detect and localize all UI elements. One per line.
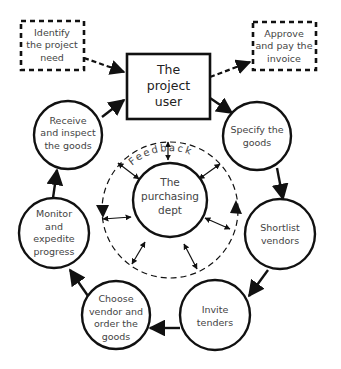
center-node-purchasing-dept: The purchasing dept	[133, 163, 207, 237]
monitor-line-3: expedite	[33, 233, 75, 244]
shortlist-line-1: Shortlist	[260, 222, 300, 233]
user-line-1: The	[156, 62, 181, 77]
step-choose-vendor: Choose vendor and order the goods	[82, 281, 150, 349]
identify-line-2: the project	[26, 39, 78, 50]
arrow-user-to-specify	[210, 98, 232, 113]
arrow-specify-to-shortlist	[277, 168, 283, 199]
choose-line-2: vendor and	[89, 306, 143, 317]
receive-line-2: and inspect	[40, 127, 96, 138]
choose-line-3: order the	[94, 318, 138, 329]
identify-line-3: need	[40, 52, 64, 63]
user-line-3: user	[155, 94, 183, 109]
identify-line-1: Identify	[34, 27, 70, 38]
feedback-arrowhead-left	[96, 205, 109, 218]
arrow-receive-to-user	[102, 100, 124, 117]
invite-line-2: tenders	[197, 317, 233, 328]
center-line-2: purchasing	[141, 190, 199, 202]
approve-line-3: invoice	[267, 53, 301, 64]
receive-line-3: the goods	[44, 140, 91, 151]
shortlist-line-2: vendors	[261, 235, 299, 246]
dashed-box-approve-invoice: Approve and pay the invoice	[253, 22, 316, 70]
dashed-box-identify-need: Identify the project need	[21, 21, 84, 70]
approve-line-2: and pay the	[256, 40, 313, 51]
arrow-shortlist-to-invite	[249, 270, 268, 296]
step-invite-tenders: Invite tenders	[180, 280, 250, 350]
monitor-line-1: Monitor	[36, 208, 72, 219]
specify-line-1: Specify the	[230, 124, 283, 135]
choose-line-4: goods	[102, 331, 131, 342]
monitor-line-2: and	[45, 221, 63, 232]
step-receive-goods: Receive and inspect the goods	[34, 101, 102, 169]
step-shortlist-vendors: Shortlist vendors	[245, 199, 315, 269]
receive-line-1: Receive	[49, 115, 86, 126]
arrow-choose-to-monitor	[70, 270, 88, 296]
monitor-line-4: progress	[33, 246, 74, 257]
center-line-3: dept	[158, 204, 182, 216]
top-node-project-user: The project user	[127, 54, 210, 119]
dashed-arrow-user-to-approve	[210, 62, 250, 77]
purchasing-cycle-diagram: Feedback The purchasing dept Identify th…	[0, 0, 341, 369]
feedback-arrowhead-right	[230, 200, 242, 214]
approve-line-1: Approve	[264, 28, 304, 39]
dashed-arrow-identify-to-user	[84, 58, 124, 72]
center-line-1: The	[159, 176, 180, 188]
user-line-2: project	[147, 78, 190, 93]
arrow-monitor-to-receive	[53, 170, 57, 198]
choose-line-1: Choose	[98, 293, 133, 304]
invite-line-1: Invite	[202, 304, 229, 315]
step-monitor-progress: Monitor and expedite progress	[19, 198, 89, 268]
specify-line-2: goods	[243, 137, 272, 148]
step-specify-goods: Specify the goods	[223, 102, 291, 170]
